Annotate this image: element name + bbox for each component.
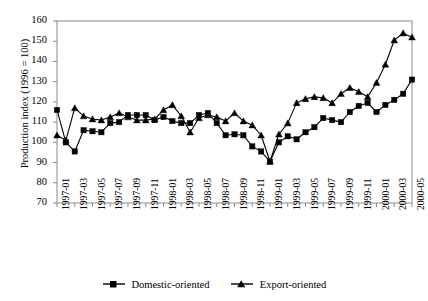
legend-triangle-marker-icon	[230, 279, 254, 289]
legend-square-marker-icon	[102, 279, 126, 289]
legend-label-domestic: Domestic-oriented	[131, 279, 209, 290]
legend-item-export: Export-oriented	[230, 278, 326, 290]
chart-figure: Production index (1996 = 100) 7080901001…	[0, 0, 428, 301]
series-export	[54, 30, 416, 165]
chart-legend: Domestic-oriented Export-oriented	[0, 277, 428, 290]
legend-label-export: Export-oriented	[260, 279, 326, 290]
legend-item-domestic: Domestic-oriented	[102, 278, 210, 290]
series-domestic	[54, 77, 414, 164]
data-series-group	[54, 30, 416, 165]
plot-area	[0, 0, 428, 301]
